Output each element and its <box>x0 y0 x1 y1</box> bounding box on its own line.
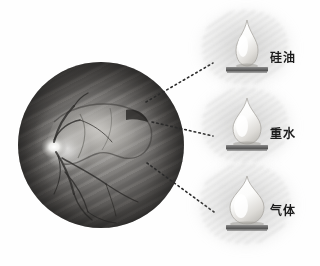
substrate-bar-gas <box>226 225 268 229</box>
droplet-highlight <box>236 115 248 137</box>
substrate-bar-shadow <box>227 229 267 231</box>
agent-gas <box>216 170 278 232</box>
agent-heavy-water <box>218 92 276 154</box>
substrate-bar-silicone-oil <box>226 67 268 71</box>
substrate-bar-shadow <box>227 71 267 73</box>
figure-canvas: 硅油 重水 <box>0 0 320 266</box>
droplet-highlight <box>238 35 248 57</box>
substrate-bar-heavy-water <box>226 145 268 149</box>
label-silicone-oil: 硅油 <box>270 52 295 64</box>
agent-silicone-oil <box>218 16 276 78</box>
substrate-bar-shadow <box>227 149 267 151</box>
droplet-highlight <box>234 194 248 218</box>
label-heavy-water: 重水 <box>270 128 295 140</box>
label-gas: 气体 <box>270 205 295 217</box>
